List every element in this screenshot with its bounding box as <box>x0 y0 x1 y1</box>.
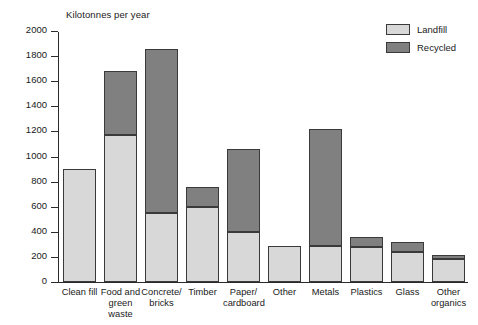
bar-group[interactable] <box>350 238 383 282</box>
y-axis-tick-label: 0 <box>42 275 47 286</box>
bar-group[interactable] <box>432 256 465 282</box>
y-axis-tick-label: 400 <box>31 225 47 236</box>
x-axis-label: Metals <box>305 287 346 298</box>
bar-group[interactable] <box>63 169 96 282</box>
legend-item[interactable]: Landfill <box>386 24 456 35</box>
x-axis-label: Paper/ cardboard <box>223 287 264 309</box>
y-axis-title: Kilotonnes per year <box>66 9 150 20</box>
y-axis-tick: 400 <box>51 232 58 233</box>
y-axis-tick-label: 200 <box>31 250 47 261</box>
bar-segment-landfill[interactable] <box>268 246 301 282</box>
x-axis-label: Glass <box>387 287 428 298</box>
y-axis-tick: 200 <box>51 257 58 258</box>
y-axis-tick-label: 1600 <box>26 74 47 85</box>
bar-segment-recycled[interactable] <box>432 255 465 260</box>
y-axis-tick: 0 <box>51 282 58 283</box>
bar-segment-landfill[interactable] <box>104 135 137 282</box>
bar-group[interactable] <box>391 243 424 282</box>
bar-segment-landfill[interactable] <box>350 247 383 282</box>
bar-segment-recycled[interactable] <box>350 237 383 247</box>
y-axis-tick: 1000 <box>51 157 58 158</box>
bar-segment-landfill[interactable] <box>186 207 219 282</box>
chart-legend: LandfillRecycled <box>386 24 456 60</box>
legend-label: Landfill <box>417 24 447 35</box>
bar-segment-landfill[interactable] <box>63 169 96 282</box>
bar-segment-recycled[interactable] <box>227 149 260 232</box>
bar-segment-recycled[interactable] <box>145 49 178 213</box>
bars-layer <box>59 32 468 282</box>
legend-item[interactable]: Recycled <box>386 42 456 53</box>
legend-swatch <box>386 42 410 53</box>
bar-segment-recycled[interactable] <box>104 71 137 135</box>
bar-segment-landfill[interactable] <box>227 232 260 282</box>
bar-group[interactable] <box>227 150 260 282</box>
legend-label: Recycled <box>417 42 456 53</box>
bar-segment-recycled[interactable] <box>391 242 424 252</box>
y-axis-tick: 2000 <box>51 31 58 32</box>
legend-swatch <box>386 24 410 35</box>
bar-group[interactable] <box>268 246 301 282</box>
x-axis-label: Plastics <box>346 287 387 298</box>
bar-segment-recycled[interactable] <box>309 129 342 245</box>
x-axis-line <box>58 282 468 283</box>
x-axis-label: Other <box>264 287 305 298</box>
y-axis-tick-label: 1200 <box>26 124 47 135</box>
bar-group[interactable] <box>145 50 178 282</box>
waste-stacked-bar-chart: Kilotonnes per year 02004006008001000120… <box>0 0 478 325</box>
y-axis-tick-label: 1800 <box>26 49 47 60</box>
plot-area: 0200400600800100012001400160018002000 <box>58 32 468 283</box>
x-axis-label: Clean fill <box>59 287 100 298</box>
y-axis-tick: 1600 <box>51 81 58 82</box>
x-axis-label: Timber <box>182 287 223 298</box>
x-axis-label: Food and green waste <box>100 287 141 320</box>
y-axis-tick-label: 800 <box>31 175 47 186</box>
y-axis-tick: 1200 <box>51 131 58 132</box>
y-axis-tick-label: 1400 <box>26 99 47 110</box>
bar-segment-landfill[interactable] <box>309 246 342 282</box>
bar-group[interactable] <box>186 188 219 282</box>
y-axis-tick: 800 <box>51 182 58 183</box>
y-axis-tick-label: 600 <box>31 200 47 211</box>
bar-group[interactable] <box>309 130 342 282</box>
bar-group[interactable] <box>104 72 137 282</box>
bar-segment-landfill[interactable] <box>432 259 465 282</box>
bar-segment-landfill[interactable] <box>145 213 178 282</box>
y-axis-tick-label: 2000 <box>26 24 47 35</box>
x-axis-label: Concrete/ bricks <box>141 287 182 309</box>
x-axis-label: Other organics <box>428 287 469 309</box>
y-axis-tick: 600 <box>51 207 58 208</box>
y-axis-tick: 1800 <box>51 56 58 57</box>
y-axis-tick: 1400 <box>51 106 58 107</box>
bar-segment-landfill[interactable] <box>391 252 424 282</box>
y-axis-tick-label: 1000 <box>26 150 47 161</box>
bar-segment-recycled[interactable] <box>186 187 219 207</box>
